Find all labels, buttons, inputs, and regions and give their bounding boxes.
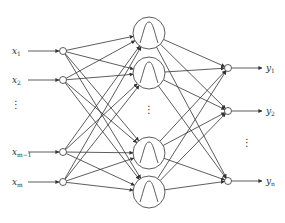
input-node [60,77,67,84]
hidden-output-edge [164,158,225,179]
hidden-output-edge [158,71,227,179]
rbf-network-diagram: x1x2xm−1xmy1y2yn⋮⋮⋮ [0,0,285,223]
hidden-node [133,57,165,89]
input-hidden-edge [66,158,134,181]
output-node [225,178,232,185]
hidden-output-edge [164,39,225,66]
output-label: y2 [265,106,275,117]
input-label: xm−1 [12,147,32,158]
input-label: xm [12,177,23,188]
hidden-output-edge [160,44,225,108]
hidden-ellipsis: ⋮ [144,104,154,115]
output-label: y1 [265,63,275,74]
hidden-node [133,176,165,208]
hidden-output-edge [165,181,225,189]
input-hidden-edge [66,152,133,153]
input-hidden-edge [66,36,133,50]
network-svg: x1x2xm−1xmy1y2yn⋮⋮⋮ [0,0,285,223]
hidden-node [133,137,165,169]
input-node [60,48,67,55]
input-label: x2 [12,75,21,86]
input-ellipsis: ⋮ [11,99,21,110]
input-node [60,179,67,186]
input-label: x1 [12,46,21,57]
hidden-output-edge [165,68,225,72]
hidden-node [133,17,165,49]
output-node [225,108,232,115]
input-hidden-edge [66,84,138,150]
output-node [225,65,232,72]
input-node [60,149,67,156]
input-hidden-edge [66,182,133,190]
input-hidden-edge [66,41,135,79]
input-hidden-edge [66,74,133,79]
hidden-output-edge [160,71,226,142]
output-ellipsis: ⋮ [242,137,252,148]
output-label: yn [265,176,275,187]
hidden-output-edge [157,47,227,178]
